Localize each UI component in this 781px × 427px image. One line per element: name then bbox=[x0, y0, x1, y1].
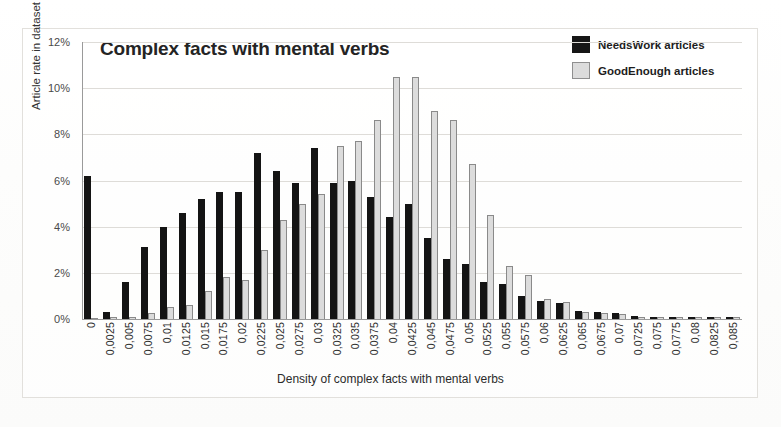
bar-group[interactable] bbox=[591, 42, 610, 319]
bar-goodenough[interactable] bbox=[205, 291, 212, 319]
bar-group[interactable] bbox=[704, 42, 723, 319]
bar-needswork[interactable] bbox=[254, 153, 261, 319]
bar-needswork[interactable] bbox=[594, 312, 601, 319]
bar-goodenough[interactable] bbox=[318, 194, 325, 319]
bar-needswork[interactable] bbox=[499, 284, 506, 319]
bar-group[interactable] bbox=[289, 42, 308, 319]
bar-group[interactable] bbox=[271, 42, 290, 319]
bar-needswork[interactable] bbox=[518, 296, 525, 319]
bar-group[interactable] bbox=[440, 42, 459, 319]
bar-needswork[interactable] bbox=[198, 199, 205, 319]
bar-goodenough[interactable] bbox=[544, 299, 551, 319]
bar-group[interactable] bbox=[252, 42, 271, 319]
bar-goodenough[interactable] bbox=[657, 317, 664, 319]
bar-needswork[interactable] bbox=[235, 192, 242, 319]
bar-goodenough[interactable] bbox=[355, 141, 362, 319]
bar-needswork[interactable] bbox=[179, 213, 186, 319]
bar-goodenough[interactable] bbox=[487, 215, 494, 319]
bar-group[interactable] bbox=[516, 42, 535, 319]
bar-needswork[interactable] bbox=[348, 181, 355, 320]
bar-needswork[interactable] bbox=[367, 197, 374, 319]
bar-needswork[interactable] bbox=[292, 183, 299, 319]
bar-group[interactable] bbox=[629, 42, 648, 319]
bar-goodenough[interactable] bbox=[676, 317, 683, 319]
bar-needswork[interactable] bbox=[160, 227, 167, 319]
bar-group[interactable] bbox=[101, 42, 120, 319]
bar-needswork[interactable] bbox=[311, 148, 318, 319]
bar-needswork[interactable] bbox=[273, 171, 280, 319]
bar-goodenough[interactable] bbox=[412, 77, 419, 319]
bar-goodenough[interactable] bbox=[110, 317, 117, 319]
bar-goodenough[interactable] bbox=[148, 313, 155, 319]
bar-group[interactable] bbox=[723, 42, 742, 319]
bar-group[interactable] bbox=[327, 42, 346, 319]
bar-goodenough[interactable] bbox=[582, 312, 589, 319]
bar-needswork[interactable] bbox=[688, 317, 695, 319]
bar-group[interactable] bbox=[82, 42, 101, 319]
bar-group[interactable] bbox=[120, 42, 139, 319]
bar-group[interactable] bbox=[553, 42, 572, 319]
bar-needswork[interactable] bbox=[650, 317, 657, 319]
bar-group[interactable] bbox=[308, 42, 327, 319]
bar-needswork[interactable] bbox=[424, 238, 431, 319]
bar-needswork[interactable] bbox=[462, 264, 469, 319]
bar-goodenough[interactable] bbox=[223, 277, 230, 319]
bar-needswork[interactable] bbox=[556, 303, 563, 319]
bar-needswork[interactable] bbox=[612, 313, 619, 319]
bar-needswork[interactable] bbox=[631, 316, 638, 319]
bar-group[interactable] bbox=[195, 42, 214, 319]
bar-goodenough[interactable] bbox=[619, 314, 626, 319]
bar-needswork[interactable] bbox=[141, 247, 148, 319]
bar-group[interactable] bbox=[610, 42, 629, 319]
bar-needswork[interactable] bbox=[726, 317, 733, 319]
bar-goodenough[interactable] bbox=[733, 317, 740, 319]
bar-goodenough[interactable] bbox=[261, 250, 268, 319]
bar-group[interactable] bbox=[346, 42, 365, 319]
bar-goodenough[interactable] bbox=[242, 280, 249, 319]
bar-group[interactable] bbox=[535, 42, 554, 319]
bar-group[interactable] bbox=[572, 42, 591, 319]
bar-needswork[interactable] bbox=[216, 192, 223, 319]
bar-goodenough[interactable] bbox=[431, 111, 438, 319]
bar-goodenough[interactable] bbox=[167, 307, 174, 319]
bar-goodenough[interactable] bbox=[91, 318, 98, 319]
bar-goodenough[interactable] bbox=[695, 317, 702, 319]
bar-group[interactable] bbox=[139, 42, 158, 319]
bar-goodenough[interactable] bbox=[638, 317, 645, 319]
bar-group[interactable] bbox=[686, 42, 705, 319]
bar-needswork[interactable] bbox=[330, 183, 337, 319]
bar-needswork[interactable] bbox=[103, 312, 110, 319]
bar-goodenough[interactable] bbox=[601, 313, 608, 319]
bar-goodenough[interactable] bbox=[337, 146, 344, 319]
bar-goodenough[interactable] bbox=[450, 120, 457, 319]
bar-group[interactable] bbox=[365, 42, 384, 319]
bar-goodenough[interactable] bbox=[186, 305, 193, 319]
bar-goodenough[interactable] bbox=[299, 204, 306, 319]
bar-group[interactable] bbox=[403, 42, 422, 319]
bar-needswork[interactable] bbox=[122, 282, 129, 319]
bar-group[interactable] bbox=[648, 42, 667, 319]
bar-goodenough[interactable] bbox=[393, 77, 400, 319]
bar-group[interactable] bbox=[176, 42, 195, 319]
bar-goodenough[interactable] bbox=[563, 302, 570, 319]
bar-needswork[interactable] bbox=[386, 217, 393, 319]
bar-needswork[interactable] bbox=[480, 282, 487, 319]
bar-group[interactable] bbox=[157, 42, 176, 319]
bar-group[interactable] bbox=[459, 42, 478, 319]
bar-group[interactable] bbox=[421, 42, 440, 319]
bar-needswork[interactable] bbox=[405, 204, 412, 319]
bar-group[interactable] bbox=[233, 42, 252, 319]
bar-needswork[interactable] bbox=[575, 311, 582, 319]
bar-goodenough[interactable] bbox=[525, 275, 532, 319]
bar-group[interactable] bbox=[667, 42, 686, 319]
bar-needswork[interactable] bbox=[707, 317, 714, 319]
bar-group[interactable] bbox=[214, 42, 233, 319]
bar-group[interactable] bbox=[384, 42, 403, 319]
bar-needswork[interactable] bbox=[84, 176, 91, 319]
bar-group[interactable] bbox=[497, 42, 516, 319]
bar-needswork[interactable] bbox=[537, 301, 544, 319]
bar-goodenough[interactable] bbox=[374, 120, 381, 319]
bar-goodenough[interactable] bbox=[469, 164, 476, 319]
bar-needswork[interactable] bbox=[443, 259, 450, 319]
bar-goodenough[interactable] bbox=[714, 317, 721, 319]
